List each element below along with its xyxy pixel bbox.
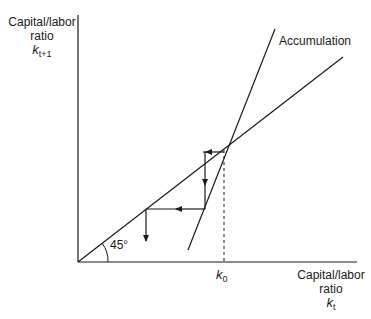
x-axis-label-line2: ratio xyxy=(291,282,371,296)
accumulation-line xyxy=(188,29,275,250)
x-axis-label: Capital/labor ratio kt xyxy=(291,268,371,314)
45-degree-line xyxy=(78,57,343,262)
y-axis-variable: kt+1 xyxy=(2,43,82,61)
x-axis-variable: kt xyxy=(291,296,371,314)
curve-label-accumulation: Accumulation xyxy=(279,34,351,48)
y-axis-label: Capital/labor ratio kt+1 xyxy=(2,15,82,61)
x-axis-label-line1: Capital/labor xyxy=(291,268,371,282)
angle-label: 45° xyxy=(110,238,128,252)
angle-arc xyxy=(102,243,108,262)
k0-label: k0 xyxy=(216,268,228,286)
y-axis-label-line2: ratio xyxy=(2,29,82,43)
y-axis-label-line1: Capital/labor xyxy=(2,15,82,29)
